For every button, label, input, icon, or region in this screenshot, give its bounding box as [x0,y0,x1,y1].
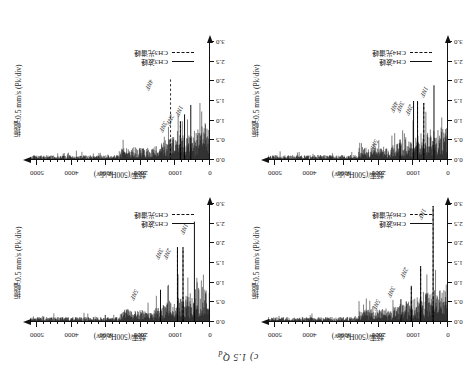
y-axis-tick [448,223,452,224]
x-axis-tick-label: 1000 [168,331,182,339]
x-axis-minor-tick [288,322,289,325]
x-axis-minor-tick [188,322,189,325]
y-axis-tick [448,321,452,322]
x-axis-title: 频率/(500Hz/div) [30,170,210,181]
x-axis-minor-tick [302,322,303,325]
x-axis-tick [378,160,379,165]
y-axis-tick-label: 3.0 [216,200,225,208]
y-axis-tick-label: 1.5 [216,97,225,105]
x-axis-minor-tick [315,322,316,325]
x-axis-title: 频率/(500Hz/div) [268,332,448,343]
y-axis-tick [210,61,214,62]
legend: CH5波峰CH5光谱峰 [134,210,194,228]
y-axis-tick [448,120,452,121]
y-axis-tick-label: 2.0 [454,239,463,247]
figure-caption-subscript: d [218,349,223,358]
legend-item[interactable]: CH4波峰 [372,57,432,66]
x-axis-tick [209,160,210,165]
x-axis-minor-tick [329,322,330,325]
x-axis-minor-tick [91,160,92,163]
x-axis-tick-label: 2000 [372,169,386,177]
x-axis-title: 频率/(500Hz/div) [268,170,448,181]
legend-item[interactable]: CH6波峰 [372,219,432,228]
legend-label: CH5波峰 [141,219,168,228]
x-axis-tick-label: 4000 [65,169,79,177]
legend-item[interactable]: CH3光谱峰 [134,48,194,57]
legend-dashed-line-icon [172,214,194,215]
x-axis-minor-tick [399,160,400,163]
x-axis-tick [36,322,37,327]
y-axis-tick-label: 0.0 [216,156,225,164]
x-axis-minor-tick [322,160,323,163]
x-axis-minor-tick [167,322,168,325]
legend-item[interactable]: CH5波峰 [134,219,194,228]
y-axis-tick-label: 2.5 [454,220,463,228]
x-axis-minor-tick [126,160,127,163]
legend-label: CH6波峰 [379,219,406,228]
x-axis-tick-label: 1000 [406,169,420,177]
y-axis-tick-label: 1.5 [454,97,463,105]
y-axis-tick-label: 2.0 [216,77,225,85]
x-axis-title: 频率/(500Hz/div) [30,332,210,343]
x-axis-minor-tick [440,322,441,325]
x-axis-tick [274,160,275,165]
legend-item[interactable]: CH3波峰 [134,57,194,66]
y-axis-title: 振幅:0.5 mm/s (Pk/div) [12,204,24,322]
x-axis-minor-tick [433,322,434,325]
legend-item[interactable]: CH4光谱峰 [372,48,432,57]
legend-item[interactable]: CH5光谱峰 [134,210,194,219]
y-axis-title: 振幅:0.5 mm/s (Pk/div) [250,204,262,322]
y-axis-tick [448,80,452,81]
x-axis-tick [378,322,379,327]
y-axis-tick-label: 3.0 [454,200,463,208]
legend-item[interactable]: CH6光谱峰 [372,210,432,219]
y-axis-tick [210,262,214,263]
y-axis-tick-label: 0.5 [454,136,463,144]
x-axis-tick [71,322,72,327]
x-axis-tick [71,160,72,165]
x-axis-minor-tick [329,160,330,163]
legend-label: CH6光谱峰 [372,210,406,219]
legend-solid-line-icon [172,61,194,62]
y-axis-tick-label: 0.5 [454,298,463,306]
legend-label: CH5光谱峰 [134,210,168,219]
y-axis-tick [448,242,452,243]
x-axis-minor-tick [154,322,155,325]
y-axis-tick-label: 1.0 [454,117,463,125]
legend-label: CH4波峰 [379,57,406,66]
legend-solid-line-icon [410,61,432,62]
x-axis-minor-tick [98,160,99,163]
y-axis-tick [210,223,214,224]
y-axis-tick [210,120,214,121]
y-axis-title: 振幅:0.5 mm/s (Pk/div) [250,42,262,160]
x-axis-tick-label: 3000 [337,169,351,177]
x-axis-minor-tick [440,160,441,163]
x-axis-minor-tick [112,160,113,163]
x-axis-minor-tick [202,322,203,325]
y-axis-tick-label: 2.5 [216,58,225,66]
x-axis-tick-label: 2000 [372,331,386,339]
x-axis-minor-tick [91,322,92,325]
x-axis-minor-tick [133,160,134,163]
x-axis-tick [447,322,448,327]
x-axis-minor-tick [57,322,58,325]
legend-dashed-line-icon [172,52,194,53]
x-axis-minor-tick [315,160,316,163]
y-axis-tick-label: 0.0 [454,318,463,326]
x-axis-minor-tick [57,160,58,163]
x-axis-tick-label: 5000 [30,331,44,339]
chart-panel-ch3: 频率/(500Hz/div)振幅:0.5 mm/s (Pk/div)010002… [0,24,238,184]
legend: CH3波峰CH3光谱峰 [134,48,194,66]
x-axis-minor-tick [188,160,189,163]
x-axis-minor-tick [364,322,365,325]
x-axis-minor-tick [364,160,365,163]
y-axis-tick-label: 0.5 [216,136,225,144]
y-axis-tick-label: 2.5 [216,220,225,228]
x-axis-minor-tick [119,160,120,163]
x-axis-tick [309,322,310,327]
x-axis-tick-label: 5000 [30,169,44,177]
x-axis-tick [447,160,448,165]
x-axis-minor-tick [281,160,282,163]
x-axis-tick [343,322,344,327]
x-axis-tick [140,160,141,165]
